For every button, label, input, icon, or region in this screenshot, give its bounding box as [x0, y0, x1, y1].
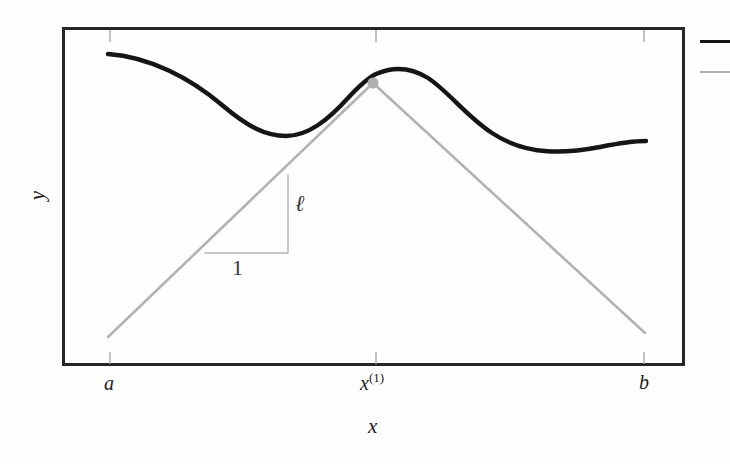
figure-container: y x a x(1) b ℓ 1 [0, 0, 730, 464]
legend [700, 36, 730, 96]
lower-bound-line [108, 83, 645, 337]
x-tick-label-b: b [639, 371, 649, 394]
x-tick-label-x1-base: x [360, 372, 369, 394]
x-tick-label-a: a [104, 372, 114, 395]
sample-point-marker [368, 78, 379, 89]
slope-triangle [205, 175, 288, 253]
x-tick-label-x1-superscript: (1) [369, 370, 384, 385]
legend-swatch-bound [700, 71, 730, 73]
y-axis-label: y [25, 191, 50, 200]
x-tick-label-x1: x(1) [360, 370, 384, 395]
run-annotation-label: 1 [232, 255, 243, 281]
rise-annotation-label: ℓ [295, 191, 305, 217]
x-axis-label: x [368, 414, 377, 439]
objective-curve [108, 54, 646, 152]
legend-swatch-objective [700, 40, 730, 43]
